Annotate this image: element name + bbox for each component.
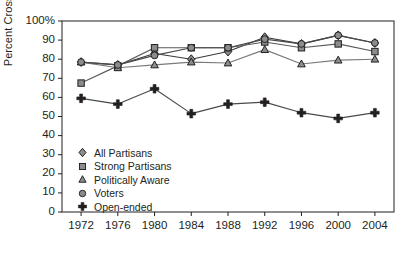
data-point-plus-marker bbox=[371, 108, 380, 117]
legend-item-label: Voters bbox=[94, 187, 124, 199]
legend-item-label: Politically Aware bbox=[94, 174, 170, 186]
data-point-diamond-marker bbox=[79, 148, 86, 156]
y-axis-tick-label: 70 bbox=[11, 72, 55, 83]
data-point-plus-marker bbox=[334, 114, 343, 123]
y-axis-tick-label: 50 bbox=[11, 110, 55, 121]
data-point-square-marker bbox=[78, 80, 84, 86]
data-point-circle-marker bbox=[188, 44, 195, 51]
circle-icon bbox=[76, 187, 89, 200]
data-point-circle-marker bbox=[151, 52, 158, 59]
data-point-plus-marker bbox=[224, 100, 233, 109]
data-point-circle-marker bbox=[335, 32, 342, 39]
plus-icon bbox=[76, 200, 89, 213]
data-point-square-marker bbox=[335, 41, 341, 47]
diamond-icon bbox=[76, 146, 89, 159]
data-point-circle-marker bbox=[225, 44, 232, 51]
y-axis-tick-label: 60 bbox=[11, 91, 55, 102]
data-point-plus-marker bbox=[187, 109, 196, 118]
data-point-circle-marker bbox=[114, 62, 121, 69]
legend-item-label: All Partisans bbox=[94, 147, 152, 159]
data-point-square-marker bbox=[372, 48, 378, 54]
y-axis-tick-label: 40 bbox=[11, 129, 55, 140]
data-point-plus-marker bbox=[297, 108, 306, 117]
data-point-plus-marker bbox=[150, 85, 159, 94]
data-point-triangle-marker bbox=[79, 176, 86, 183]
data-point-plus-marker bbox=[114, 100, 123, 109]
triangle-icon bbox=[76, 173, 89, 186]
data-point-plus-marker bbox=[77, 94, 86, 103]
legend-item-label: Strong Partisans bbox=[94, 160, 172, 172]
y-axis-tick-label: 20 bbox=[11, 167, 55, 178]
y-axis-tick-label: 0 bbox=[11, 206, 55, 217]
data-point-circle-marker bbox=[261, 36, 268, 43]
y-axis-tick-label: 30 bbox=[11, 148, 55, 159]
data-point-square-marker bbox=[79, 163, 85, 169]
x-axis-tick-label: 2004 bbox=[353, 220, 397, 231]
data-point-triangle-marker bbox=[261, 46, 269, 53]
series-markers-open-ended bbox=[77, 85, 379, 123]
y-axis-tick-label: 90 bbox=[11, 34, 55, 45]
data-point-circle-marker bbox=[372, 40, 379, 47]
data-point-circle-marker bbox=[79, 190, 85, 196]
data-point-plus-marker bbox=[78, 202, 86, 210]
legend-item-label: Open-ended bbox=[94, 201, 152, 213]
data-point-plus-marker bbox=[260, 98, 269, 107]
data-point-square-marker bbox=[151, 45, 157, 51]
y-axis-tick-label: 80 bbox=[11, 53, 55, 64]
data-point-circle-marker bbox=[78, 59, 85, 66]
square-icon bbox=[76, 160, 89, 173]
y-axis-tick-label: 100% bbox=[11, 15, 55, 26]
data-point-circle-marker bbox=[298, 41, 305, 48]
y-axis-tick-label: 10 bbox=[11, 186, 55, 197]
chart-container: Percent Cross-pressured 100%908070605040… bbox=[0, 0, 412, 264]
data-point-triangle-marker bbox=[371, 55, 379, 62]
